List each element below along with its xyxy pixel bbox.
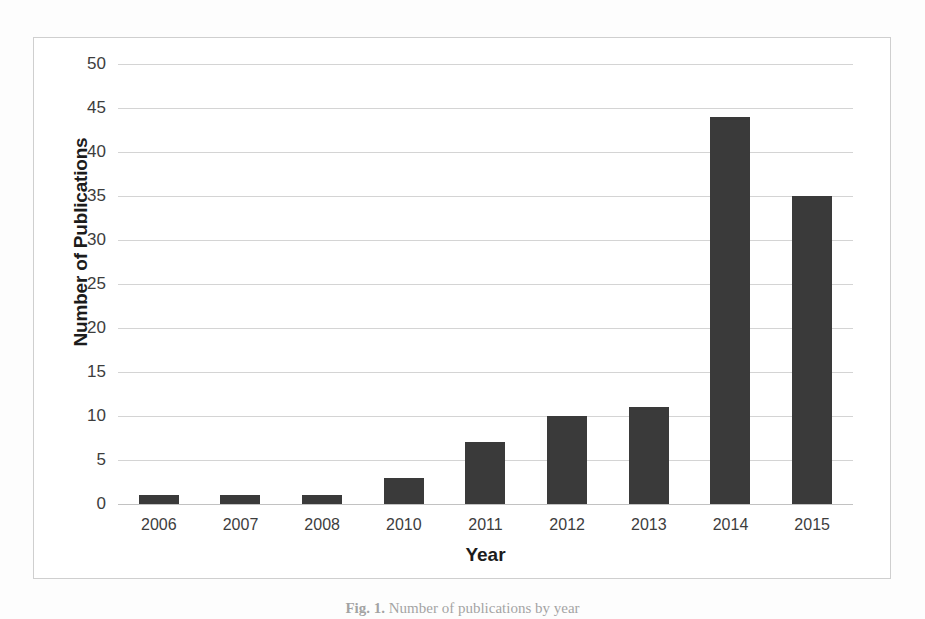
x-axis-title: Year (118, 544, 853, 566)
x-tick-label-2011: 2011 (468, 516, 502, 534)
x-tick-label-2012: 2012 (549, 516, 585, 534)
bar-2007 (220, 495, 260, 504)
gridline-0 (118, 504, 853, 505)
caption-text: Number of publications by year (389, 600, 580, 616)
x-tick-label-2006: 2006 (141, 516, 177, 534)
caption-label: Fig. 1. (345, 600, 385, 616)
figure-caption: Fig. 1. Number of publications by year (0, 600, 925, 617)
bar-slot (445, 64, 527, 504)
y-tick-label-10: 10 (87, 406, 106, 426)
y-tick-label-5: 5 (97, 450, 106, 470)
bar-slot (200, 64, 282, 504)
bar-slot (608, 64, 690, 504)
bar-2014 (710, 117, 750, 504)
bar-2006 (139, 495, 179, 504)
y-tick-label-20: 20 (87, 318, 106, 338)
plot-area: 05101520253035404550 2006200720082010201… (118, 64, 853, 504)
bar-2010 (384, 478, 424, 504)
bar-2012 (547, 416, 587, 504)
y-tick-label-30: 30 (87, 230, 106, 250)
chart-frame: Number of Publications 05101520253035404… (33, 37, 891, 579)
x-tick-label-2013: 2013 (631, 516, 667, 534)
y-tick-label-35: 35 (87, 186, 106, 206)
bar-2008 (302, 495, 342, 504)
x-tick-label-2010: 2010 (386, 516, 422, 534)
x-tick-label-2008: 2008 (304, 516, 340, 534)
bar-2013 (629, 407, 669, 504)
y-tick-label-0: 0 (97, 494, 106, 514)
bar-slot (118, 64, 200, 504)
y-tick-label-25: 25 (87, 274, 106, 294)
figure-container: Number of Publications 05101520253035404… (0, 0, 925, 619)
x-tick-label-2007: 2007 (223, 516, 259, 534)
y-tick-label-50: 50 (87, 54, 106, 74)
bar-slot (526, 64, 608, 504)
bar-slot (690, 64, 772, 504)
y-tick-label-45: 45 (87, 98, 106, 118)
bar-slot (771, 64, 853, 504)
bar-2011 (465, 442, 505, 504)
x-tick-label-2015: 2015 (794, 516, 830, 534)
bar-slot (281, 64, 363, 504)
bar-2015 (792, 196, 832, 504)
x-tick-label-2014: 2014 (713, 516, 749, 534)
y-tick-label-15: 15 (87, 362, 106, 382)
y-tick-label-40: 40 (87, 142, 106, 162)
bar-series (118, 64, 853, 504)
bar-slot (363, 64, 445, 504)
